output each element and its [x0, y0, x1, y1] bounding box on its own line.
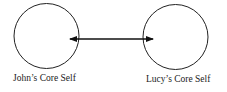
- john-core-self-label: John’s Core Self: [13, 73, 76, 83]
- john-core-self-circle: [14, 4, 79, 69]
- lucy-core-self-label: Lucy’s Core Self: [146, 74, 210, 84]
- lucy-core-self-circle: [143, 5, 208, 70]
